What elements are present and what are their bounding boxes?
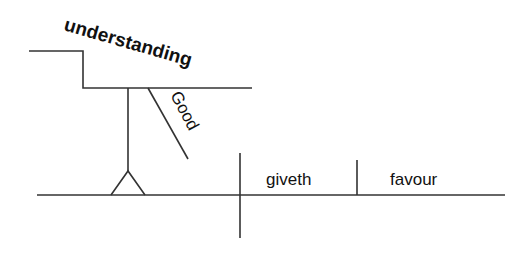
object-word: favour: [390, 170, 438, 189]
sentence-diagram: understanding Good giveth favour: [0, 0, 530, 257]
verb-word: giveth: [266, 170, 311, 189]
subject-word: understanding: [62, 14, 195, 71]
stem-stand: [111, 171, 145, 195]
subject-step-line: [29, 51, 252, 88]
modifier-word: Good: [166, 88, 202, 134]
